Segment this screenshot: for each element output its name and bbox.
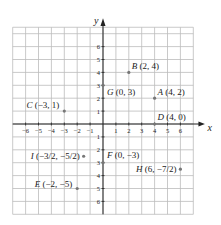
x-tick-label: −2 [74, 127, 81, 134]
y-tick-label: 3 [97, 82, 100, 89]
y-tick-label: 1 [97, 133, 100, 140]
point-e [76, 187, 79, 190]
x-tick-label: 5 [166, 127, 169, 134]
point-i [82, 155, 85, 158]
point-a [153, 97, 156, 100]
x-tick-label: 3 [140, 127, 143, 134]
point-h [179, 168, 182, 171]
x-tick-label: 4 [153, 127, 157, 134]
point-g [101, 84, 104, 87]
y-tick-label: 2 [97, 146, 100, 153]
point-label-f: F (0, −3) [106, 150, 139, 160]
point-label-h: H (6, −7/2) [135, 164, 176, 174]
point-label-g: G (0, 3) [107, 87, 135, 97]
y-tick-label: 1 [97, 108, 100, 115]
x-tick-label: −6 [22, 127, 30, 134]
x-tick-label: 2 [127, 127, 130, 134]
x-tick-label: 6 [179, 127, 183, 134]
y-tick-label: 5 [97, 185, 100, 192]
x-tick-label: −1 [87, 127, 94, 134]
y-axis-label: y [93, 15, 99, 26]
x-tick-label: −5 [35, 127, 42, 134]
y-tick-label: 3 [97, 159, 100, 166]
point-label-e: E (−2, −5) [34, 179, 72, 189]
x-tick-label: −4 [48, 127, 56, 134]
coordinate-plane: xy−6−5−4−3−2−1123456654321123456A (4, 2)… [0, 0, 221, 225]
y-tick-label: 2 [97, 95, 100, 102]
x-tick-label: −3 [61, 127, 68, 134]
point-label-i: I (−3/2, −5/2) [30, 151, 80, 161]
point-b [127, 71, 130, 74]
x-axis-label: x [206, 122, 212, 133]
point-label-c: C (−3, 1) [26, 100, 59, 110]
y-tick-label: 5 [97, 56, 100, 63]
point-label-a: A (4, 2) [157, 87, 185, 97]
point-label-b: B (2, 4) [132, 61, 159, 71]
point-d [153, 122, 156, 125]
x-axis-arrow-icon [198, 122, 204, 127]
point-f [101, 161, 104, 164]
x-tick-label: 1 [114, 127, 117, 134]
y-axis-arrow-icon [101, 18, 106, 26]
point-c [63, 110, 66, 113]
point-label-d: D (4, 0) [157, 112, 186, 122]
